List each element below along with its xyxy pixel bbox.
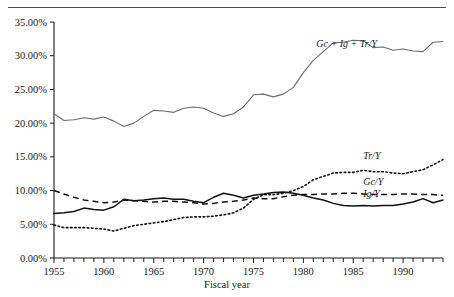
y-tick-label: 5.00% [20,219,47,230]
x-axis-tick-labels: 19551960196519701975198019851990 [44,266,414,277]
y-tick-label: 35.00% [15,17,48,28]
chart-figure: 0.00%5.00%10.00%15.00%20.00%25.00%30.00%… [0,0,454,297]
y-tick-label: 0.00% [20,253,47,264]
x-tick-label: 1955 [44,266,65,277]
series-line-gc-ig-tr-y [54,40,443,126]
y-axis-ticks [50,22,54,258]
x-tick-label: 1965 [143,266,164,277]
series-label-ig-y: Ig/Y [362,188,381,199]
y-tick-label: 25.00% [15,84,48,95]
y-axis-group: 0.00%5.00%10.00%15.00%20.00%25.00%30.00%… [15,17,54,264]
y-tick-label: 10.00% [15,185,48,196]
series-label-gc-ig-tr-y: Gc + Ig + Tr/Y [316,38,378,49]
x-axis-group: 19551960196519701975198019851990 [44,258,444,277]
x-tick-label: 1985 [343,266,364,277]
line-chart-plot: 0.00%5.00%10.00%15.00%20.00%25.00%30.00%… [0,0,454,297]
x-tick-label: 1990 [393,266,414,277]
x-axis-title: Fiscal year [204,279,250,290]
series-label-gc-y: Gc/Y [363,176,384,187]
series-annotations: Gc + Ig + Tr/YTr/YGc/YIg/Y [316,38,384,199]
x-tick-label: 1960 [93,266,114,277]
series-label-tr-y: Tr/Y [363,150,382,161]
x-axis-ticks [54,258,443,263]
y-axis-tick-labels: 0.00%5.00%10.00%15.00%20.00%25.00%30.00%… [15,17,48,264]
y-tick-label: 15.00% [15,151,48,162]
x-tick-label: 1970 [193,266,214,277]
data-series-lines [54,40,443,231]
y-tick-label: 30.00% [15,50,48,61]
y-tick-label: 20.00% [15,118,48,129]
x-tick-label: 1975 [243,266,264,277]
x-tick-label: 1980 [293,266,314,277]
